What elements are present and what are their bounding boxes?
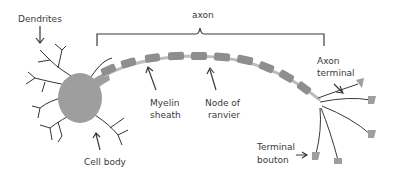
- label-axon: axon: [192, 10, 214, 21]
- label-myelin-sheath-line2: sheath: [150, 110, 181, 121]
- label-myelin-sheath-line1: Myelin: [150, 98, 179, 109]
- label-terminal-bouton-line1: Terminal: [257, 142, 295, 153]
- myelin-sheath-segments: [100, 52, 312, 96]
- label-cell-body: Cell body: [84, 157, 126, 168]
- terminal-boutons: [312, 78, 376, 164]
- axon-terminal-branches: [316, 84, 370, 160]
- label-axon-terminal-line2: terminal: [317, 68, 355, 79]
- label-axon-terminal-line1: Axon: [317, 56, 339, 67]
- label-dendrites: Dendrites: [18, 14, 62, 25]
- neuron-diagram: [0, 0, 395, 180]
- axon-bracket: [97, 28, 324, 46]
- label-node-of-ranvier-line1: Node of: [205, 98, 240, 109]
- label-node-of-ranvier-line2: ranvier: [208, 110, 240, 121]
- label-terminal-bouton-line2: bouton: [257, 155, 289, 166]
